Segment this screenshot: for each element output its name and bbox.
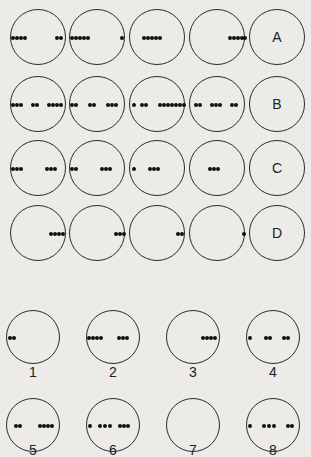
- dot: [272, 424, 276, 428]
- dot: [19, 103, 23, 107]
- dot: [158, 36, 162, 40]
- dot: [268, 336, 272, 340]
- pattern-circle: [189, 205, 245, 261]
- option-number-label: 8: [263, 442, 283, 457]
- dot: [132, 167, 136, 171]
- option-number-label: 6: [103, 442, 123, 457]
- dot: [182, 103, 186, 107]
- dot: [74, 167, 78, 171]
- dot: [122, 232, 126, 236]
- dot: [59, 103, 63, 107]
- dot: [103, 424, 107, 428]
- dot: [234, 103, 238, 107]
- dot: [59, 36, 63, 40]
- pattern-circle: [10, 205, 66, 261]
- dot: [99, 336, 103, 340]
- dot: [18, 424, 22, 428]
- dot: [213, 336, 217, 340]
- dot: [262, 424, 266, 428]
- dot: [86, 36, 90, 40]
- dot: [126, 424, 130, 428]
- dot: [125, 336, 129, 340]
- dot: [88, 424, 92, 428]
- option-number-label: 2: [103, 364, 123, 380]
- row-label-circle: B: [249, 76, 305, 132]
- dot: [156, 167, 160, 171]
- dot: [286, 336, 290, 340]
- dot: [180, 232, 184, 236]
- pattern-circle: [129, 205, 185, 261]
- answer-option-3[interactable]: [166, 310, 220, 364]
- dot: [218, 103, 222, 107]
- option-number-label: 3: [183, 364, 203, 380]
- dot: [198, 103, 202, 107]
- dot: [248, 336, 252, 340]
- dot: [242, 232, 246, 236]
- dot: [12, 336, 16, 340]
- pattern-circle: [69, 76, 125, 132]
- row-label: D: [250, 225, 304, 241]
- dot: [23, 36, 27, 40]
- option-number-label: 7: [183, 442, 203, 457]
- dot: [114, 103, 118, 107]
- pattern-circle: [189, 140, 245, 196]
- option-number-label: 1: [23, 364, 43, 380]
- dot: [290, 424, 294, 428]
- dot: [50, 424, 54, 428]
- row-label-circle: A: [249, 9, 305, 65]
- pattern-circle: [129, 9, 185, 65]
- dot: [19, 167, 23, 171]
- dot: [216, 167, 220, 171]
- pattern-circle: [69, 9, 125, 65]
- pattern-circle: [129, 76, 185, 132]
- dot: [98, 424, 102, 428]
- row-label: C: [250, 160, 304, 176]
- dot: [248, 424, 252, 428]
- dot: [243, 36, 247, 40]
- pattern-circle: [10, 140, 66, 196]
- pattern-circle: [189, 76, 245, 132]
- dot: [132, 103, 136, 107]
- pattern-circle: [69, 205, 125, 261]
- dot: [120, 36, 124, 40]
- dot: [61, 232, 65, 236]
- pattern-circle: [10, 9, 66, 65]
- dot: [144, 103, 148, 107]
- dot: [53, 167, 57, 171]
- row-label: A: [250, 29, 304, 45]
- row-label-circle: D: [249, 205, 305, 261]
- dot: [35, 103, 39, 107]
- pattern-circle: [69, 140, 125, 196]
- row-label: B: [250, 96, 304, 112]
- pattern-circle: [129, 140, 185, 196]
- dot: [74, 103, 78, 107]
- pattern-circle: [189, 9, 245, 65]
- option-number-label: 4: [263, 364, 283, 380]
- pattern-circle: [10, 76, 66, 132]
- row-label-circle: C: [249, 140, 305, 196]
- answer-option-4[interactable]: [246, 310, 300, 364]
- dot: [108, 167, 112, 171]
- dot: [108, 424, 112, 428]
- option-number-label: 5: [23, 442, 43, 457]
- answer-option-2[interactable]: [86, 310, 140, 364]
- answer-option-1[interactable]: [6, 310, 60, 364]
- dot: [92, 103, 96, 107]
- dot: [267, 424, 271, 428]
